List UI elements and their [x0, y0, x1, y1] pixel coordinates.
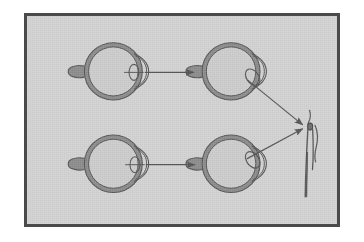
eye-accommodation-diagram	[27, 16, 337, 224]
eye-group-top-left	[68, 43, 148, 100]
page-title: Eye accommodation diagram	[0, 21, 1, 22]
eye-group-top-right	[186, 43, 266, 100]
diagram-frame	[24, 13, 340, 227]
arrow-bottom-to-object	[247, 129, 303, 159]
arrow-top-to-object	[248, 80, 303, 125]
candle-object	[305, 110, 317, 197]
eye-group-bottom-left	[68, 135, 148, 192]
eye-group-bottom-right	[186, 135, 266, 192]
screenshot-root: Eye accommodation diagram	[0, 0, 364, 242]
